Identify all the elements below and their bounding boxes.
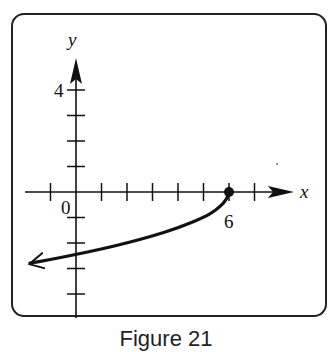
figure-frame: [12, 14, 326, 316]
y-axis-label: y: [66, 29, 77, 50]
tick-labels: 064: [54, 80, 234, 232]
closed-endpoint-dot: [224, 187, 234, 197]
y-tick-label: 4: [54, 80, 64, 101]
x-tick-label: 0: [61, 197, 71, 218]
x-tick-label: 6: [224, 211, 234, 232]
x-axis-label: x: [299, 181, 309, 202]
figure-caption: Figure 21: [0, 326, 332, 352]
axes: xy: [25, 29, 309, 318]
function-curve: [30, 192, 229, 263]
speck: [276, 163, 278, 165]
